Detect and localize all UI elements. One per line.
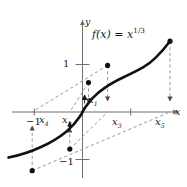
marked-points-group xyxy=(30,39,173,174)
y-axis-label: y xyxy=(85,17,90,27)
point-x1 xyxy=(86,80,91,85)
newton-method-figure: f(x) = x1/3 x y 1 −1 −1 x1 x2 x3 x4 x5 xyxy=(0,0,187,187)
equation-argument: (x) xyxy=(96,28,111,41)
iterate-label-x2: x2 xyxy=(62,115,72,127)
iterate-x5-sub: 5 xyxy=(161,122,165,129)
iterate-x4-sub: 4 xyxy=(45,120,49,127)
iterate-x1-sub: 1 xyxy=(94,100,98,107)
point-x2 xyxy=(67,147,72,152)
iterate-label-x1: x1 xyxy=(88,95,98,107)
y-tick-label-neg1: −1 xyxy=(59,157,74,167)
equation-exponent: 1/3 xyxy=(133,26,145,35)
iterate-label-x3: x3 xyxy=(112,117,122,129)
point-x3 xyxy=(105,63,110,68)
iterate-x3-sub: 3 xyxy=(118,122,122,129)
tangent-lines-group xyxy=(32,65,170,170)
y-tick-label-1: 1 xyxy=(63,59,69,69)
drop-lines-group xyxy=(32,41,170,171)
pointer-x1-icon xyxy=(83,95,87,104)
iterate-x2-sub: 2 xyxy=(68,120,72,127)
iterate-label-x4: x4 xyxy=(39,115,49,127)
tangent-line-x2 xyxy=(70,112,108,149)
equation-equals: = xyxy=(111,28,127,41)
function-equation-label: f(x) = x1/3 xyxy=(92,27,145,40)
point-x4 xyxy=(30,168,35,173)
iterate-label-x5: x5 xyxy=(155,117,165,129)
x-axis-label: x xyxy=(175,107,180,117)
point-x5 xyxy=(167,39,172,44)
